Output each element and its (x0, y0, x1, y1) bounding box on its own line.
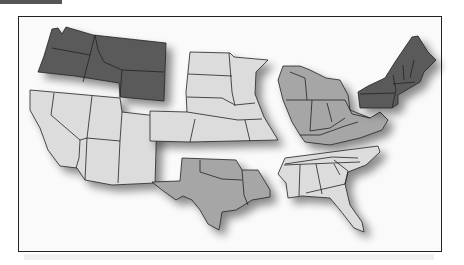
region-southeast[interactable] (278, 146, 380, 232)
region-plains[interactable] (150, 52, 278, 142)
us-regions-map (0, 0, 464, 265)
region-northwest[interactable] (38, 27, 166, 101)
region-south-central[interactable] (152, 158, 270, 230)
region-northeast[interactable] (358, 36, 436, 108)
region-southwest[interactable] (30, 90, 157, 185)
